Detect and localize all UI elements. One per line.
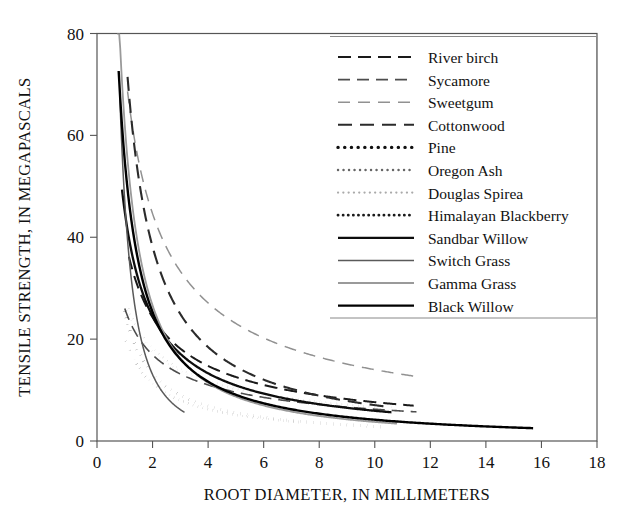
curve-sweetgum — [128, 91, 414, 376]
legend-label-cottonwood: Cottonwood — [428, 117, 505, 134]
curve-sandbar-willow — [122, 190, 391, 413]
x-tick-label: 6 — [259, 453, 268, 472]
curve-gamma-grass — [117, 34, 397, 424]
legend: River birchSycamoreSweetgumCottonwoodPin… — [330, 37, 597, 319]
curve-cottonwood — [128, 77, 392, 407]
legend-label-douglas-spirea: Douglas Spirea — [428, 185, 523, 202]
legend-label-river-birch: River birch — [428, 49, 498, 66]
x-axis-title: ROOT DIAMETER, IN MILLIMETERS — [204, 485, 490, 504]
y-tick-label: 60 — [67, 126, 84, 145]
curve-switch-grass — [120, 95, 185, 412]
legend-label-sycamore: Sycamore — [428, 72, 490, 89]
legend-label-sandbar-willow: Sandbar Willow — [428, 230, 529, 247]
y-axis-tick-labels: 020406080 — [67, 25, 84, 452]
x-tick-label: 14 — [477, 453, 495, 472]
x-tick-label: 0 — [93, 453, 102, 472]
legend-label-oregon-ash: Oregon Ash — [428, 162, 503, 179]
y-tick-label: 40 — [67, 228, 84, 247]
x-tick-label: 16 — [533, 453, 550, 472]
x-tick-label: 4 — [204, 453, 213, 472]
chart-figure: 020406080 024681012141618 River birchSyc… — [0, 0, 624, 528]
legend-label-sweetgum: Sweetgum — [428, 94, 493, 111]
x-tick-label: 8 — [315, 453, 324, 472]
x-tick-label: 12 — [422, 453, 439, 472]
legend-label-black-willow: Black Willow — [428, 298, 514, 315]
x-axis-ticks — [97, 441, 597, 448]
x-tick-label: 2 — [148, 453, 157, 472]
tensile-strength-chart: 020406080 024681012141618 River birchSyc… — [0, 0, 624, 528]
y-tick-label: 0 — [76, 432, 85, 451]
x-tick-label: 18 — [589, 453, 606, 472]
y-axis-title: TENSILE STRENGTH, IN MEGAPASCALS — [15, 77, 34, 396]
legend-label-himalayan-blackberry: Himalayan Blackberry — [428, 207, 569, 224]
x-tick-label: 10 — [366, 453, 383, 472]
legend-label-pine: Pine — [428, 139, 456, 156]
y-tick-label: 80 — [67, 25, 84, 44]
legend-label-switch-grass: Switch Grass — [428, 252, 510, 269]
legend-label-gamma-grass: Gamma Grass — [428, 275, 516, 292]
y-tick-label: 20 — [67, 330, 84, 349]
y-axis-ticks — [90, 34, 97, 442]
x-axis-tick-labels: 024681012141618 — [93, 453, 606, 472]
